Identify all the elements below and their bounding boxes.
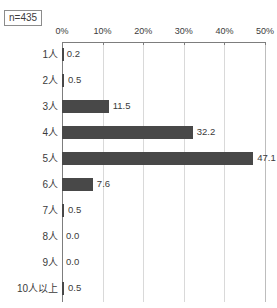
x-axis-tick-label: 10% <box>94 26 112 37</box>
chart-title <box>0 0 277 1</box>
y-axis-category-label: 5人 <box>0 146 58 172</box>
x-axis-tick-labels: 0%10%20%30%40%50% <box>0 26 277 39</box>
bar <box>62 100 109 113</box>
x-axis-tick-label: 0% <box>55 26 68 37</box>
bar-value-label: 0.2 <box>67 47 80 61</box>
bar-value-label: 32.2 <box>197 125 216 139</box>
bar-value-label: 0.0 <box>66 229 79 243</box>
x-axis-tick-mark <box>62 42 63 45</box>
bar <box>62 178 93 191</box>
bar-row: 32.2 <box>62 120 265 146</box>
bar-row: 0.2 <box>62 42 265 68</box>
x-axis-tick-mark <box>143 42 144 45</box>
y-axis-category-label: 7人 <box>0 198 58 224</box>
y-axis-category-label: 9人 <box>0 250 58 276</box>
x-axis-tick-mark <box>224 42 225 45</box>
bar-row: 0.0 <box>62 224 265 250</box>
bar-row: 11.5 <box>62 94 265 120</box>
bar <box>62 204 64 217</box>
x-axis-tick-label: 40% <box>215 26 233 37</box>
bar-row: 0.0 <box>62 250 265 276</box>
bar-value-label: 7.6 <box>97 177 110 191</box>
bar-value-label: 0.0 <box>66 255 79 269</box>
bar-row: 7.6 <box>62 172 265 198</box>
bar-value-label: 11.5 <box>113 99 131 113</box>
plot-area: 0.20.511.532.247.17.60.50.00.00.5 <box>62 42 265 302</box>
sample-size-badge: n=435 <box>4 10 42 26</box>
x-axis-tick-mark <box>184 42 185 45</box>
bar-row: 47.1 <box>62 146 265 172</box>
x-axis-tick-label: 20% <box>134 26 152 37</box>
y-axis-category-label: 4人 <box>0 120 58 146</box>
bar-row: 0.5 <box>62 68 265 94</box>
grid-line <box>265 42 266 302</box>
bar <box>62 126 193 139</box>
bar <box>62 74 64 87</box>
y-axis-category-label: 6人 <box>0 172 58 198</box>
bar-row: 0.5 <box>62 276 265 302</box>
bar <box>62 152 253 165</box>
bar-value-label: 0.5 <box>68 281 81 295</box>
y-axis-category-label: 1人 <box>0 42 58 68</box>
x-axis-tick-mark <box>265 42 266 45</box>
x-axis-tick-label: 50% <box>256 26 274 37</box>
y-axis-category-label: 8人 <box>0 224 58 250</box>
y-axis-category-label: 3人 <box>0 94 58 120</box>
bar-value-label: 0.5 <box>68 73 81 87</box>
bar-value-label: 0.5 <box>68 203 81 217</box>
x-axis-tick-mark <box>103 42 104 45</box>
y-axis-category-label: 2人 <box>0 68 58 94</box>
bar <box>62 48 64 61</box>
bar-row: 0.5 <box>62 198 265 224</box>
bar <box>62 282 64 295</box>
bar-value-label: 47.1 <box>257 151 276 165</box>
y-axis-category-label: 10人以上 <box>0 276 58 302</box>
x-axis-tick-label: 30% <box>175 26 193 37</box>
